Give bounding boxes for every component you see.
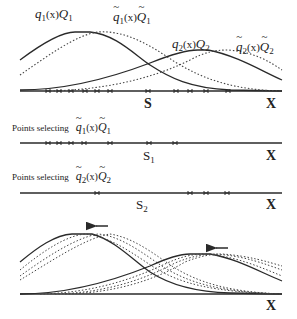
sample-point-marker xyxy=(204,191,208,195)
top-split-label: S xyxy=(144,97,152,111)
sample-point-marker xyxy=(146,89,150,93)
label-q2Q2: q2(x)Q2 xyxy=(172,37,210,53)
s2-axis-x-label: X xyxy=(266,198,276,212)
bottom-curve-2-dotted-b xyxy=(55,254,282,294)
curve-q2Q2-tilde xyxy=(50,50,282,91)
bottom-panel xyxy=(20,226,282,294)
bottom-axis-x-label: X xyxy=(266,299,276,313)
s1-caption: Points selecting q1(x)Q1 xyxy=(12,118,111,136)
sample-point-marker xyxy=(83,89,87,93)
sample-point-marker xyxy=(188,191,192,195)
sample-point-marker xyxy=(174,89,178,93)
label-q1Q1-tilde: q1(x)Q1 xyxy=(113,10,151,26)
sample-point-marker xyxy=(57,141,61,145)
s2-split-label: S2 xyxy=(136,198,148,214)
s1-axis-x-label: X xyxy=(266,149,276,163)
s1-split-label: S1 xyxy=(143,149,155,165)
sample-point-marker xyxy=(95,89,99,93)
sample-point-marker xyxy=(147,141,151,145)
sample-point-marker xyxy=(108,89,112,93)
sample-point-marker xyxy=(82,141,86,145)
top-axis-x-label: X xyxy=(266,97,276,111)
sample-point-marker xyxy=(173,141,177,145)
s2-panel xyxy=(20,191,282,195)
sample-point-marker xyxy=(108,141,112,145)
sample-point-marker xyxy=(188,89,192,93)
label-q1Q1: q1(x)Q1 xyxy=(35,7,73,23)
sample-point-marker xyxy=(69,141,73,145)
s2-caption: Points selecting q2(x)Q2 xyxy=(12,167,111,185)
sample-point-marker xyxy=(46,89,50,93)
sample-point-marker xyxy=(95,191,99,195)
sample-point-marker xyxy=(57,89,61,93)
sample-point-marker xyxy=(225,191,229,195)
sample-point-marker xyxy=(46,141,50,145)
label-q2Q2-tilde: q2(x)Q2 xyxy=(236,40,274,56)
sample-point-marker xyxy=(204,89,208,93)
s1-panel xyxy=(20,141,282,145)
curve-q2Q2 xyxy=(20,50,282,90)
bottom-curve-2-dotted-c xyxy=(65,254,282,294)
